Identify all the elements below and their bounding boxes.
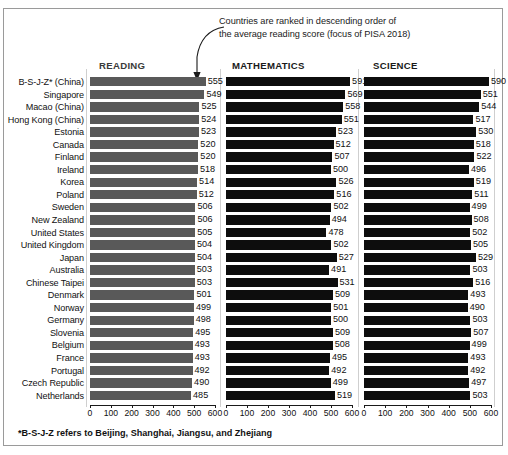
bar-value-reading: 499 (196, 302, 211, 314)
bar-reading (90, 190, 197, 199)
chart-row: Portugal492492492 (4, 365, 504, 378)
bar-math (226, 228, 326, 237)
bar-value-reading: 555 (208, 76, 223, 88)
axis-tick-label: 600 (345, 408, 359, 419)
bar-cell-math: 516 (223, 189, 352, 202)
chart-row: Finland520507522 (4, 151, 504, 164)
bar-cell-math: 508 (223, 339, 352, 352)
bar-math (226, 190, 334, 199)
bar-value-math: 531 (340, 277, 355, 289)
bar-cell-math: 558 (223, 101, 352, 114)
bar-math (226, 341, 333, 350)
country-label: Finland (4, 151, 84, 164)
chart-row: Poland512516511 (4, 189, 504, 202)
bar-value-science: 508 (474, 214, 489, 226)
bar-cell-science: 507 (361, 327, 491, 340)
bar-cell-science: 519 (361, 176, 491, 189)
chart-row: Macao (China)525558544 (4, 101, 504, 114)
country-label: Denmark (4, 289, 84, 302)
bar-value-math: 551 (344, 114, 359, 126)
chart-row: Netherlands485519503 (4, 390, 504, 403)
bar-reading (90, 366, 193, 375)
bar-math (226, 378, 331, 387)
axis-tick-label: 600 (484, 408, 498, 419)
bar-reading (90, 228, 195, 237)
bar-science (364, 391, 470, 400)
bar-cell-reading: 524 (87, 114, 215, 127)
bar-cell-science: 544 (361, 101, 491, 114)
bar-cell-math: 502 (223, 239, 352, 252)
bar-value-math: 512 (336, 139, 351, 151)
bar-reading (90, 203, 195, 212)
bar-science (364, 278, 473, 287)
chart-row: Chinese Taipei503531516 (4, 277, 504, 290)
bar-cell-reading: 523 (87, 126, 215, 139)
chart-row: Belgium493508499 (4, 339, 504, 352)
bar-math (226, 90, 345, 99)
bar-value-reading: 505 (197, 227, 212, 239)
bar-cell-reading: 506 (87, 201, 215, 214)
axis-tick-label: 300 (420, 408, 434, 419)
bar-cell-science: 503 (361, 264, 491, 277)
axis-tick-label: 600 (208, 408, 222, 419)
bar-cell-reading: 504 (87, 252, 215, 265)
bar-cell-science: 493 (361, 289, 491, 302)
bar-math (226, 140, 334, 149)
country-label: Germany (4, 314, 84, 327)
bar-science (364, 303, 468, 312)
bar-cell-science: 511 (361, 189, 491, 202)
axis-reading: 0100200300400500600 (87, 405, 219, 427)
bar-cell-reading: 514 (87, 176, 215, 189)
bar-reading (90, 316, 194, 325)
chart-row: Germany498500503 (4, 314, 504, 327)
bar-cell-reading: 492 (87, 365, 215, 378)
bar-value-math: 526 (338, 176, 353, 188)
bar-value-science: 530 (478, 126, 493, 138)
bar-reading (90, 178, 197, 187)
bar-value-science: 492 (470, 365, 485, 377)
bar-value-science: 522 (476, 151, 491, 163)
bar-science (364, 140, 474, 149)
chart-row: B-S-J-Z* (China)555591590 (4, 76, 504, 89)
bar-math (226, 178, 336, 187)
axis-tick-label: 0 (88, 408, 93, 419)
bar-cell-reading: 503 (87, 264, 215, 277)
bar-science (364, 228, 470, 237)
chart-row: Korea514526519 (4, 176, 504, 189)
axis-tick-label: 300 (145, 408, 159, 419)
chart-row: United States505478502 (4, 227, 504, 240)
chart-footnote: *B-S-J-Z refers to Beijing, Shanghai, Ji… (18, 428, 272, 438)
country-label: United Kingdom (4, 239, 84, 252)
column-header-mathematics: MATHEMATICS (232, 60, 305, 71)
bar-value-reading: 520 (200, 151, 215, 163)
bar-cell-reading: 498 (87, 314, 215, 327)
bar-value-math: 507 (334, 151, 349, 163)
bar-value-math: 500 (333, 314, 348, 326)
bar-math (226, 303, 331, 312)
bar-value-math: 519 (337, 390, 352, 402)
bar-cell-math: 495 (223, 352, 352, 365)
bar-value-science: 496 (471, 164, 486, 176)
bar-math (226, 328, 333, 337)
bar-value-reading: 524 (201, 114, 216, 126)
bar-reading (90, 140, 198, 149)
chart-figure: Countries are ranked in descending order… (3, 8, 503, 446)
bar-value-science: 517 (475, 114, 490, 126)
bar-value-reading: 512 (199, 189, 214, 201)
bar-value-science: 499 (472, 339, 487, 351)
chart-row: Ireland518500496 (4, 164, 504, 177)
bar-cell-science: 518 (361, 139, 491, 152)
bar-science (364, 265, 470, 274)
bar-value-reading: 504 (197, 239, 212, 251)
bar-value-science: 516 (475, 277, 490, 289)
bar-math (226, 391, 335, 400)
axis-tick-label: 500 (463, 408, 477, 419)
bar-value-science: 502 (472, 227, 487, 239)
bar-value-science: 544 (481, 101, 496, 113)
country-label: Sweden (4, 201, 84, 214)
country-label: Australia (4, 264, 84, 277)
bar-cell-science: 503 (361, 314, 491, 327)
bar-value-science: 505 (473, 239, 488, 251)
bar-cell-reading: 512 (87, 189, 215, 202)
bar-science (364, 127, 476, 136)
